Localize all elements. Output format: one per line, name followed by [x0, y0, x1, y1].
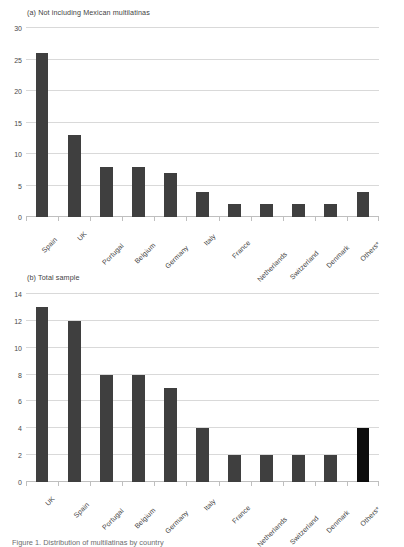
chart-a-bars: [26, 28, 379, 217]
y-axis-tick-label: 0: [18, 214, 22, 221]
y-axis-tick-label: 8: [18, 371, 22, 378]
y-axis-tick-label: 10: [14, 151, 22, 158]
bar-denmark: [324, 455, 337, 482]
chart-b-plot-area: 02468101214 UKSpainPortugalBelgiumGerman…: [26, 294, 379, 482]
x-axis-label: Denmark: [324, 244, 350, 270]
chart-b-title: (b) Total sample: [27, 273, 80, 282]
bar-portugal: [100, 167, 113, 217]
x-axis-label: UK: [76, 230, 88, 242]
x-axis-label: Denmark: [324, 509, 350, 535]
bar-switzerland: [292, 455, 305, 482]
y-axis-tick-label: 0: [18, 479, 22, 486]
x-axis-label: France: [231, 504, 252, 525]
x-axis-label: Portugal: [101, 242, 125, 266]
bar-netherlands: [260, 204, 273, 217]
bar-uk: [36, 307, 49, 482]
x-axis-label: Others*: [358, 240, 380, 262]
chart-a-x-axis-labels: SpainUKPortugalBelgiumGermanyItalyFrance…: [26, 217, 379, 267]
x-axis-label: Italy: [203, 232, 217, 246]
chart-panel-b: (b) Total sample 02468101214 UKSpainPort…: [0, 268, 404, 530]
y-axis-tick-label: 25: [14, 56, 22, 63]
bar-portugal: [100, 375, 113, 482]
x-axis-label: Belgium: [133, 241, 156, 264]
chart-a-title: (a) Not including Mexican multilatinas: [27, 8, 150, 17]
y-axis-tick-label: 5: [18, 182, 22, 189]
bar-spain: [68, 321, 81, 482]
bar-germany: [164, 388, 177, 482]
bar-belgium: [132, 375, 145, 482]
chart-b-bars: [26, 294, 379, 482]
x-axis-label: UK: [44, 495, 56, 507]
y-axis-tick-label: 30: [14, 25, 22, 32]
x-axis-label: Spain: [40, 236, 58, 254]
y-axis-tick-label: 10: [14, 344, 22, 351]
bar-uk: [68, 135, 81, 217]
bar-germany: [164, 173, 177, 217]
y-axis-tick-label: 4: [18, 425, 22, 432]
y-axis-tick-label: 2: [18, 452, 22, 459]
x-axis-label: France: [231, 239, 252, 260]
bar-switzerland: [292, 204, 305, 217]
bar-france: [228, 204, 241, 217]
bar-france: [228, 455, 241, 482]
chart-b-x-axis-labels: UKSpainPortugalBelgiumGermanyItalyFrance…: [26, 482, 379, 532]
bar-netherlands: [260, 455, 273, 482]
x-axis-label: Germany: [164, 509, 190, 535]
bar-italy: [196, 428, 209, 482]
x-axis-label: Portugal: [101, 507, 125, 531]
y-axis-tick-label: 14: [14, 291, 22, 298]
bar-others: [357, 428, 370, 482]
bar-spain: [36, 53, 49, 217]
x-axis-label: Germany: [164, 244, 190, 270]
bar-others: [357, 192, 370, 217]
bar-belgium: [132, 167, 145, 217]
x-axis-label: Spain: [72, 501, 90, 519]
x-axis-label: Belgium: [133, 506, 156, 529]
x-axis-label: Others*: [358, 505, 380, 527]
y-axis-tick-label: 12: [14, 317, 22, 324]
chart-a-plot-area: 051015202530 SpainUKPortugalBelgiumGerma…: [26, 28, 379, 217]
x-axis-label: Italy: [203, 497, 217, 511]
y-axis-tick-label: 20: [14, 88, 22, 95]
bar-denmark: [324, 204, 337, 217]
figure-caption: Figure 1. Distribution of multilatinas b…: [12, 538, 396, 547]
y-axis-tick-label: 6: [18, 398, 22, 405]
y-axis-tick-label: 15: [14, 119, 22, 126]
bar-italy: [196, 192, 209, 217]
chart-panel-a: (a) Not including Mexican multilatinas 0…: [0, 0, 404, 268]
